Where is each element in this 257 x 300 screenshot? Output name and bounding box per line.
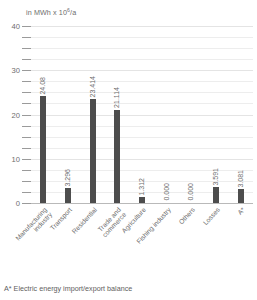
bar-slot: 3.081: [228, 26, 253, 203]
bar: [40, 96, 46, 203]
bar: [90, 99, 96, 203]
plot-area: 010203040 24.083.29623.41421.1141.3120.0…: [31, 26, 253, 203]
footnote: A* Electric energy import/export balance: [4, 284, 132, 293]
bar-value-label: 1.312: [138, 178, 145, 196]
y-axis-tick-label: 0: [16, 199, 20, 208]
y-axis-unit-text: in MWh x 10: [26, 8, 67, 17]
bar-slot: 23.414: [80, 26, 105, 203]
bar-value-label: 21.114: [113, 87, 120, 108]
y-axis-tick-mark: [22, 70, 31, 71]
y-axis-tick-mark: [22, 48, 31, 49]
bar: [213, 187, 219, 203]
y-axis-tick-label: 20: [12, 110, 20, 119]
y-axis-tick-mark: [22, 92, 31, 93]
bar-slot: 21.114: [105, 26, 130, 203]
bar-series: 24.083.29623.41421.1141.3120.0000.0003.5…: [31, 26, 253, 203]
bar-value-label: 24.08: [39, 77, 46, 95]
y-axis-tick-mark: [22, 159, 31, 160]
y-axis-tick-mark: [22, 170, 31, 171]
y-axis-tick-mark: [22, 115, 31, 116]
bar-slot: 1.312: [130, 26, 155, 203]
bar-value-label: 3.591: [212, 168, 219, 186]
y-axis-tick-mark: [22, 26, 31, 27]
bar-slot: 24.08: [31, 26, 56, 203]
y-axis-tick-mark: [22, 192, 31, 193]
bar-value-label: 3.296: [64, 169, 71, 187]
y-axis-unit-label: in MWh x 106/a: [26, 8, 76, 17]
y-axis-tick-mark: [22, 148, 31, 149]
y-axis-tick-mark: [22, 181, 31, 182]
y-axis-tick-mark: [22, 203, 31, 204]
bar-chart: in MWh x 106/a 010203040 24.083.29623.41…: [0, 0, 257, 300]
bar-slot: 3.591: [204, 26, 229, 203]
y-axis-tick-mark: [22, 126, 31, 127]
bar-value-label: 0.000: [187, 183, 194, 201]
y-axis-tick-mark: [22, 81, 31, 82]
y-axis-tick-label: 30: [12, 66, 20, 75]
x-axis-category-labels: ManufacturingindustryTransportResidentia…: [31, 204, 253, 272]
bar-value-label: 23.414: [89, 76, 96, 97]
bar-value-label: 3.081: [237, 170, 244, 188]
y-axis-tick-mark: [22, 103, 31, 104]
y-axis-tick-mark: [22, 37, 31, 38]
bar-slot: 0.000: [154, 26, 179, 203]
y-axis-tick-label: 10: [12, 154, 20, 163]
bar: [139, 197, 145, 203]
bar-slot: 0.000: [179, 26, 204, 203]
y-axis-tick-mark: [22, 137, 31, 138]
y-axis-tick-mark: [22, 59, 31, 60]
bar-slot: 3.296: [56, 26, 81, 203]
y-axis-tick-label: 40: [12, 22, 20, 31]
y-axis-unit-suffix: /a: [70, 8, 76, 17]
bar: [238, 189, 244, 203]
bar: [114, 110, 120, 203]
bar-value-label: 0.000: [163, 183, 170, 201]
bar: [65, 188, 71, 203]
